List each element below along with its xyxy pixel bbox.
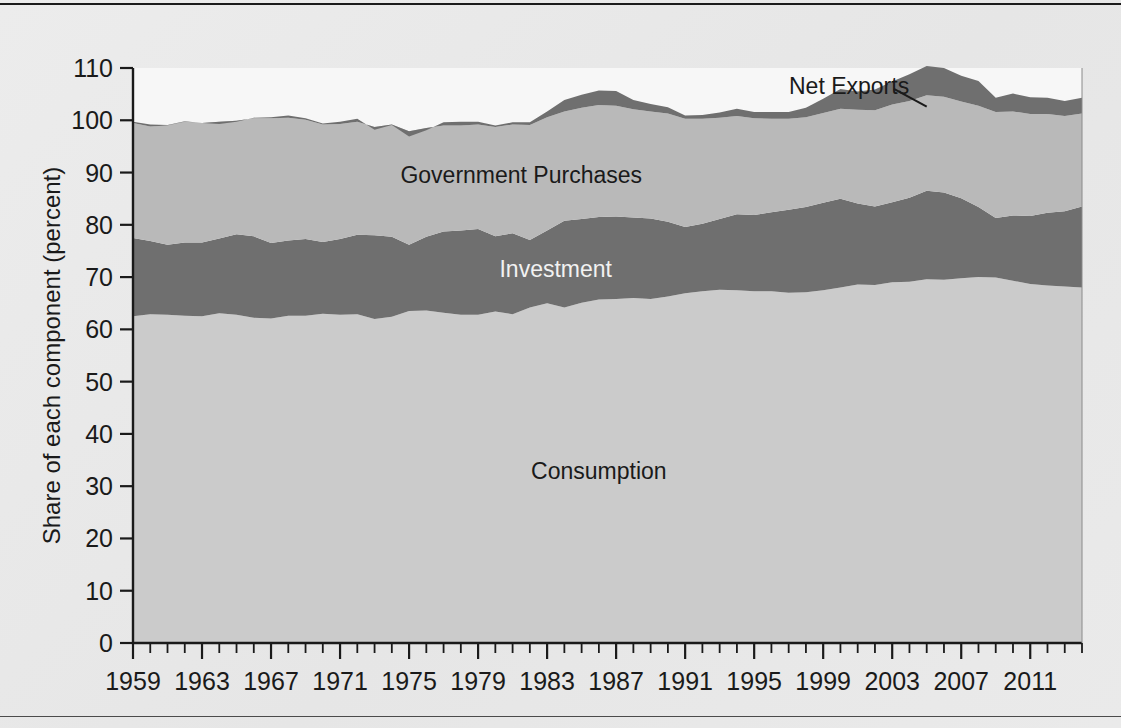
x-axis-tick-label: 1971: [312, 667, 368, 695]
y-axis-tick-label: 10: [85, 577, 113, 605]
x-axis-tick-label: 2003: [864, 667, 920, 695]
x-axis-tick-label: 1979: [450, 667, 506, 695]
y-axis-tick-label: 0: [99, 629, 113, 657]
figure-container: 0102030405060708090100110195919631967197…: [0, 0, 1121, 728]
y-axis-tick-label: 50: [85, 368, 113, 396]
y-axis-tick-label: 70: [85, 263, 113, 291]
x-axis-tick-label: 1963: [174, 667, 230, 695]
y-axis-tick-label: 60: [85, 315, 113, 343]
y-axis-tick-label: 100: [71, 106, 113, 134]
net-exports-label: Net Exports: [789, 73, 909, 99]
x-axis-tick-label: 1991: [657, 667, 713, 695]
x-axis-tick-label: 1983: [519, 667, 575, 695]
x-axis-tick-label: 1987: [588, 667, 644, 695]
government-label: Government Purchases: [400, 162, 642, 188]
y-axis-tick-label: 20: [85, 524, 113, 552]
y-axis-title: Share of each component (percent): [38, 167, 65, 545]
x-axis-tick-label: 1999: [795, 667, 851, 695]
x-axis-tick-label: 1959: [105, 667, 161, 695]
x-axis-tick-label: 1975: [381, 667, 437, 695]
consumption-label: Consumption: [531, 458, 667, 484]
x-axis-tick-label: 2007: [933, 667, 989, 695]
investment-label: Investment: [499, 256, 612, 282]
y-axis-tick-label: 90: [85, 159, 113, 187]
x-axis-tick-label: 2011: [1003, 667, 1057, 695]
stacked-area-chart: 0102030405060708090100110195919631967197…: [0, 0, 1121, 728]
y-axis-tick-label: 40: [85, 420, 113, 448]
y-axis-tick-label: 30: [85, 472, 113, 500]
x-axis-tick-label: 1995: [726, 667, 782, 695]
y-axis-tick-label: 110: [73, 54, 113, 82]
y-axis-tick-label: 80: [85, 211, 113, 239]
x-axis-tick-label: 1967: [243, 667, 299, 695]
